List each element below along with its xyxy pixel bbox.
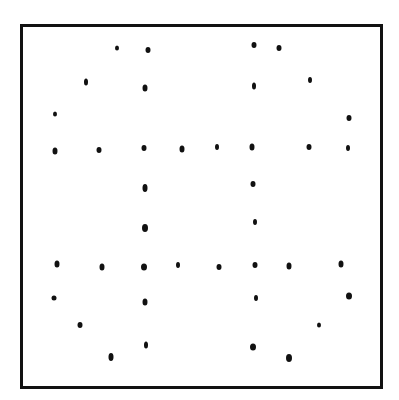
dot <box>317 323 321 328</box>
dot <box>217 264 222 270</box>
dot <box>100 264 105 271</box>
dot <box>346 145 350 151</box>
dot <box>307 144 312 150</box>
dot <box>180 146 185 153</box>
dot <box>253 262 258 268</box>
dot <box>84 79 88 86</box>
dot <box>142 224 148 232</box>
dot <box>287 263 292 270</box>
dot <box>143 85 148 92</box>
dot <box>277 45 282 51</box>
dot <box>252 42 257 48</box>
dot <box>143 184 148 192</box>
dot <box>53 112 57 117</box>
dot <box>254 295 258 301</box>
dot <box>252 83 256 90</box>
dot <box>55 261 60 268</box>
dot-diagram <box>0 0 399 400</box>
dot <box>251 181 256 187</box>
dot <box>141 264 147 271</box>
dot <box>215 144 219 150</box>
dot <box>146 47 151 53</box>
square-frame <box>20 24 383 389</box>
dot <box>78 322 83 328</box>
dot <box>143 299 148 306</box>
dot <box>253 219 257 225</box>
dot <box>97 147 102 153</box>
dot <box>52 296 57 301</box>
dot <box>53 148 58 155</box>
dot <box>286 354 292 362</box>
dot <box>339 261 344 268</box>
dot <box>308 77 312 83</box>
dot <box>142 145 147 151</box>
dot <box>109 353 114 361</box>
dot <box>346 293 352 300</box>
dot <box>347 115 352 121</box>
dot <box>144 342 148 349</box>
dot <box>250 144 255 151</box>
dot <box>250 344 256 351</box>
dot <box>176 262 180 268</box>
dot <box>115 46 119 51</box>
